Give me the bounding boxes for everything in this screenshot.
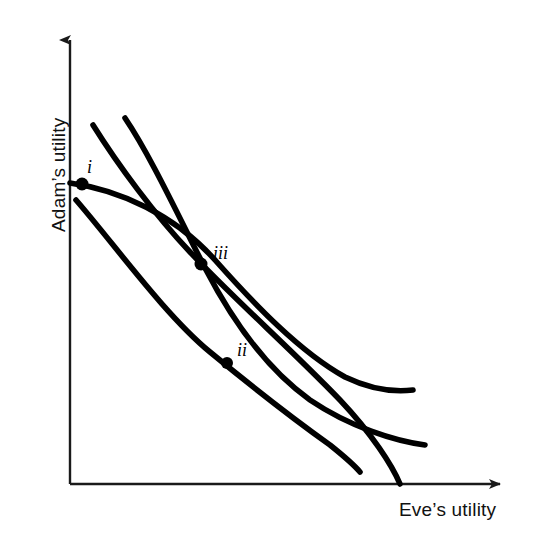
point-marker-ii <box>221 357 233 369</box>
x-axis-label: Eve’s utility <box>399 499 496 521</box>
curve-indifference-through-ii <box>76 200 360 472</box>
curve-indifference-through-iii <box>93 125 400 484</box>
curve-indifference-upper <box>125 118 425 445</box>
point-marker-i <box>76 178 89 191</box>
y-axis-label: Adam’s utility <box>48 32 70 232</box>
utility-possibility-frontier-figure: Adam’s utility Eve’s utility i iii ii <box>0 0 546 548</box>
point-label-ii: ii <box>237 340 247 361</box>
point-marker-iii <box>195 258 208 271</box>
point-label-iii: iii <box>213 243 228 264</box>
plot-canvas <box>0 0 546 548</box>
point-label-i: i <box>87 157 92 178</box>
